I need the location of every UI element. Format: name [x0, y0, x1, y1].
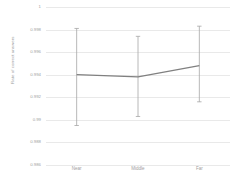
y-tick-label: 1: [0, 5, 41, 9]
plot-area: [46, 7, 230, 165]
y-tick-label: 0.992: [0, 95, 41, 99]
x-tick-label: Middle: [131, 167, 144, 172]
y-tick-label: 0.988: [0, 140, 41, 144]
y-tick-label: 0.998: [0, 27, 41, 31]
y-tick-label: 0.994: [0, 73, 41, 77]
x-axis-category-labels: NearMiddleFar: [46, 167, 230, 179]
line-chart: Rate of correct answers 10.9980.9960.994…: [0, 0, 233, 182]
y-tick-label: 0.996: [0, 50, 41, 54]
y-tick-label: 0.986: [0, 163, 41, 167]
y-tick-label: 0.99: [0, 118, 41, 122]
x-tick-label: Near: [72, 167, 82, 172]
series-layer: [46, 7, 230, 165]
x-tick-label: Far: [196, 167, 203, 172]
